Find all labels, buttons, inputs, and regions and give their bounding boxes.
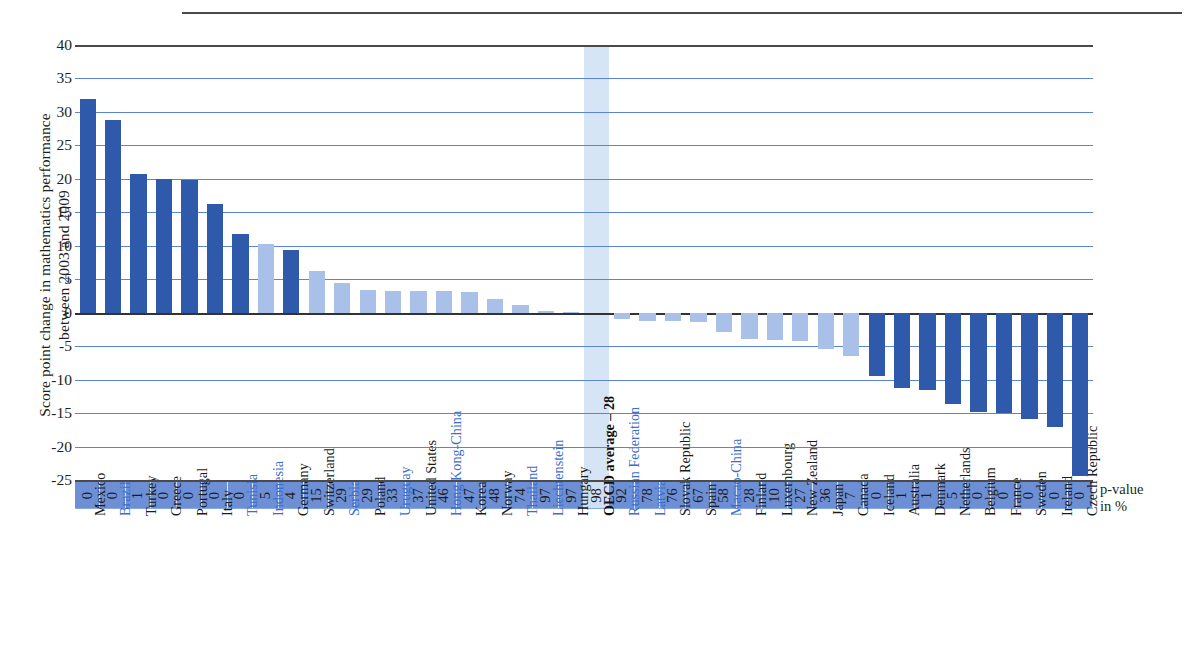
bar-portugal — [181, 180, 197, 313]
bar-korea — [461, 292, 477, 313]
top-rule — [182, 12, 1182, 14]
bar-series — [75, 45, 1093, 480]
bar-new-zealand — [792, 313, 808, 342]
y-tick-label-10: 10 — [57, 236, 73, 254]
bar-liechtenstein — [538, 311, 554, 312]
bar-spain — [690, 313, 706, 322]
p-value-label-line2: in % — [1100, 498, 1143, 515]
bar-hong-kong-china — [436, 291, 452, 312]
y-tick-label--25: -25 — [51, 471, 72, 489]
category-label-text: Serbia — [347, 480, 361, 516]
bar-luxembourg — [767, 313, 783, 340]
bar-poland — [360, 290, 376, 313]
bar-uruguay — [385, 291, 401, 313]
bar-switzerland — [309, 271, 325, 313]
category-label-text: Spain — [704, 484, 718, 516]
bar-canada — [843, 313, 859, 357]
chart-root: Score point change in mathematics perfor… — [0, 0, 1185, 659]
bar-ireland — [1047, 313, 1063, 427]
bar-slovak-republic — [665, 313, 681, 321]
bar-turkey — [130, 174, 146, 313]
category-label-text: Korea — [474, 481, 488, 516]
bar-greece — [156, 179, 172, 313]
y-tick-label--5: -5 — [59, 337, 72, 355]
bar-finland — [741, 313, 757, 340]
bar-united-states — [410, 291, 426, 313]
bar-australia — [894, 313, 910, 388]
bar-brazil — [105, 120, 121, 313]
bar-latvia — [639, 313, 655, 321]
bar-czech-republic — [1072, 313, 1088, 476]
bar-belgium — [970, 313, 986, 413]
category-label-text: Japan — [831, 484, 845, 516]
bar-denmark — [919, 313, 935, 391]
bar-netherlands — [945, 313, 961, 404]
y-tick-label-15: 15 — [57, 203, 73, 221]
plot-area — [75, 45, 1093, 480]
category-label-text: Poland — [373, 477, 387, 516]
bar-mexico — [80, 99, 96, 313]
bar-iceland — [869, 313, 885, 376]
category-label-text: Brazil — [118, 481, 132, 516]
p-value-label-line1: p-value — [1100, 481, 1143, 498]
category-label-text: Italy — [220, 490, 234, 516]
bar-sweden — [1021, 313, 1037, 419]
y-tick-label-25: 25 — [57, 136, 73, 154]
y-tick-label-30: 30 — [57, 103, 73, 121]
bar-indonesia — [258, 244, 274, 312]
p-value-axis-label: p-value in % — [1100, 481, 1143, 515]
y-tick-label-20: 20 — [57, 169, 73, 187]
bar-tunisia — [232, 234, 248, 313]
bar-italy — [207, 204, 223, 313]
y-tick-label-0: 0 — [64, 303, 72, 321]
bar-norway — [487, 299, 503, 312]
bar-serbia — [334, 283, 350, 312]
bar-thailand — [512, 305, 528, 312]
category-labels: MexicoBrazilTurkeyGreecePortugalItalyTun… — [75, 514, 1093, 659]
bar-macao-china — [716, 313, 732, 332]
category-label-text: Latvia — [653, 480, 667, 516]
bar-france — [996, 313, 1012, 413]
bar-russian-federation — [614, 313, 630, 320]
axis-bottom-rule — [75, 480, 1093, 482]
bar-japan — [818, 313, 834, 349]
y-tick-label--15: -15 — [51, 404, 72, 422]
category-label-text: France — [1009, 477, 1023, 516]
bar-hungary — [563, 312, 579, 313]
y-tick-label--20: -20 — [51, 437, 72, 455]
y-tick-label-35: 35 — [57, 69, 73, 87]
y-tick-label--10: -10 — [51, 370, 72, 388]
y-tick-label-40: 40 — [57, 36, 73, 54]
y-axis-tick-labels: 4035302520151050-5-10-15-20-25 — [28, 45, 72, 480]
y-tick-label-5: 5 — [64, 270, 72, 288]
bar-germany — [283, 250, 299, 313]
